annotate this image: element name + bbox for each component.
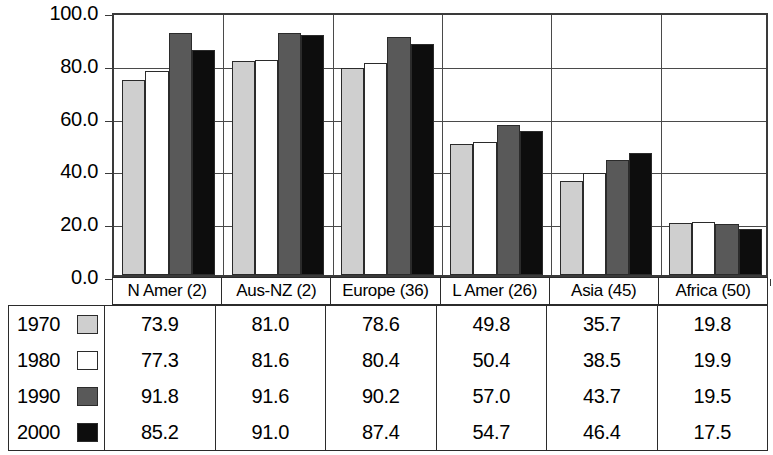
table-cell: 78.6 xyxy=(326,306,437,342)
bar xyxy=(450,144,473,275)
category-axis-labels: N Amer (2)Aus-NZ (2)Europe (36)L Amer (2… xyxy=(112,277,768,305)
bar xyxy=(715,224,738,275)
legend-entry: 1980 xyxy=(9,342,105,378)
y-axis-tick-label: 60.0 xyxy=(0,109,98,129)
bar xyxy=(255,60,278,275)
bar-chart: 100.080.060.040.020.00.0 N Amer (2)Aus-N… xyxy=(0,0,773,300)
plot-area xyxy=(112,13,768,277)
bar xyxy=(629,153,652,275)
table-cell: 46.4 xyxy=(547,414,658,450)
bar xyxy=(301,35,324,275)
y-axis-tick xyxy=(105,173,114,174)
category-separator xyxy=(551,15,552,275)
y-axis-tick-label: 40.0 xyxy=(0,161,98,181)
y-axis-tick xyxy=(105,15,114,16)
bar xyxy=(583,173,606,275)
bar xyxy=(560,181,583,275)
table-cell: 77.3 xyxy=(105,342,216,378)
bar xyxy=(497,125,520,275)
table-cell: 19.8 xyxy=(658,306,768,342)
table-row: 199091.891.690.257.043.719.5 xyxy=(9,378,767,414)
bar xyxy=(364,63,387,275)
bar xyxy=(473,142,496,275)
category-label: L Amer (26) xyxy=(441,278,550,304)
legend-entry: 2000 xyxy=(9,414,105,450)
table-cell: 49.8 xyxy=(437,306,548,342)
legend-year-label: 2000 xyxy=(17,421,69,444)
category-label: Aus-NZ (2) xyxy=(222,278,331,304)
category-separator xyxy=(223,15,224,275)
y-axis-tick-label: 0.0 xyxy=(0,267,98,287)
table-cell: 85.2 xyxy=(105,414,216,450)
category-label: Asia (45) xyxy=(550,278,659,304)
bar xyxy=(520,131,543,275)
table-cell: 90.2 xyxy=(326,378,437,414)
legend-year-label: 1990 xyxy=(17,385,69,408)
table-cell: 81.0 xyxy=(216,306,327,342)
y-axis-tick-label: 100.0 xyxy=(0,3,98,23)
table-cell: 43.7 xyxy=(547,378,658,414)
bar xyxy=(669,223,692,275)
x-axis-tick xyxy=(770,279,771,286)
table-cell: 87.4 xyxy=(326,414,437,450)
table-cell: 73.9 xyxy=(105,306,216,342)
legend-swatch-icon xyxy=(77,315,98,334)
table-cell: 17.5 xyxy=(658,414,768,450)
y-axis-tick-label: 80.0 xyxy=(0,56,98,76)
table-cell: 50.4 xyxy=(437,342,548,378)
bar xyxy=(411,44,434,275)
chart-page: 100.080.060.040.020.00.0 N Amer (2)Aus-N… xyxy=(0,0,773,455)
bar xyxy=(387,37,410,275)
legend-swatch-icon xyxy=(77,387,98,406)
table-row: 200085.291.087.454.746.417.5 xyxy=(9,414,767,450)
bar xyxy=(692,222,715,275)
category-separator xyxy=(442,15,443,275)
category-label: Africa (50) xyxy=(659,278,767,304)
category-label: N Amer (2) xyxy=(113,278,222,304)
bar xyxy=(232,61,255,275)
y-axis-tick xyxy=(105,121,114,122)
category-separator xyxy=(333,15,334,275)
bar xyxy=(192,50,215,275)
table-cell: 91.0 xyxy=(216,414,327,450)
legend-year-label: 1980 xyxy=(17,349,69,372)
legend-year-label: 1970 xyxy=(17,313,69,336)
y-axis-tick-label: 20.0 xyxy=(0,214,98,234)
legend-swatch-icon xyxy=(77,423,98,442)
bar xyxy=(169,33,192,275)
table-cell: 38.5 xyxy=(547,342,658,378)
category-label: Europe (36) xyxy=(331,278,440,304)
plot-inner xyxy=(114,15,766,275)
bar xyxy=(606,160,629,275)
bar xyxy=(122,80,145,275)
category-separator xyxy=(661,15,662,275)
table-cell: 35.7 xyxy=(547,306,658,342)
table-cell: 54.7 xyxy=(437,414,548,450)
bar xyxy=(278,33,301,275)
y-axis-tick xyxy=(105,226,114,227)
y-axis: 100.080.060.040.020.00.0 xyxy=(0,0,104,300)
table-cell: 57.0 xyxy=(437,378,548,414)
bar xyxy=(739,229,762,275)
legend-entry: 1990 xyxy=(9,378,105,414)
table-row: 198077.381.680.450.438.519.9 xyxy=(9,342,767,378)
data-table: 197073.981.078.649.835.719.8198077.381.6… xyxy=(8,305,768,451)
bar xyxy=(341,68,364,276)
legend-swatch-icon xyxy=(77,351,98,370)
table-cell: 81.6 xyxy=(216,342,327,378)
table-row: 197073.981.078.649.835.719.8 xyxy=(9,306,767,342)
table-cell: 80.4 xyxy=(326,342,437,378)
legend-entry: 1970 xyxy=(9,306,105,342)
table-cell: 91.8 xyxy=(105,378,216,414)
bar xyxy=(145,71,168,275)
table-cell: 91.6 xyxy=(216,378,327,414)
y-axis-tick xyxy=(105,68,114,69)
table-cell: 19.5 xyxy=(658,378,768,414)
table-cell: 19.9 xyxy=(658,342,768,378)
